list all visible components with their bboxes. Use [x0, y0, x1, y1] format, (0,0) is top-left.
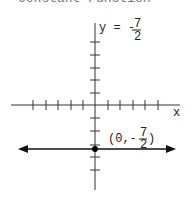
right-arrow-icon: [166, 145, 176, 153]
point-label: (0,-: [108, 132, 137, 146]
svg-text:): ): [148, 132, 155, 146]
left-arrow-icon: [18, 145, 28, 153]
svg-text:2: 2: [140, 138, 147, 152]
equation-lhs: y = -: [99, 21, 135, 35]
svg-text:2: 2: [134, 30, 141, 44]
svg-text:7: 7: [134, 17, 141, 31]
point-marker: [92, 146, 98, 152]
x-axis-label: x: [173, 106, 180, 120]
graph: y = - 7 2 x (0,- 7 2 ): [0, 0, 192, 201]
